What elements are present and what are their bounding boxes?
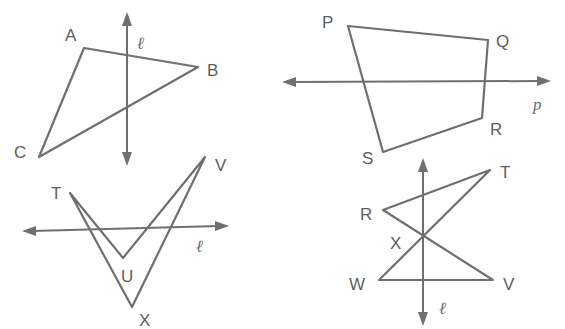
figure-quadrilateral-pqrs: P Q R S p xyxy=(282,13,551,168)
line-label-ell-3: ℓ xyxy=(439,299,446,318)
intersection-label-x: X xyxy=(390,234,401,253)
vertex-label-p: P xyxy=(322,13,333,32)
arrowhead-up-icon xyxy=(122,12,132,26)
vertex-label-r: R xyxy=(490,120,502,139)
vertex-label-s: S xyxy=(362,149,373,168)
vertex-label-v: V xyxy=(215,156,227,175)
vertex-label-v: V xyxy=(503,275,515,294)
vertex-label-t: T xyxy=(51,184,61,203)
line-ell-2 xyxy=(32,226,219,231)
arrowhead-up-icon xyxy=(418,158,428,172)
arrowhead-right-icon xyxy=(537,76,551,86)
vertex-label-t: T xyxy=(500,163,510,182)
vertex-label-x: X xyxy=(139,311,150,329)
line-label-ell-1: ℓ xyxy=(137,34,144,53)
vertex-label-w: W xyxy=(349,275,365,294)
bowtie-rtvw xyxy=(379,170,493,280)
triangle-abc xyxy=(39,48,198,157)
arrowhead-down-icon xyxy=(418,312,428,326)
figure-bowtie-rtvw: R T W V X ℓ xyxy=(349,158,515,326)
line-label-ell-2: ℓ xyxy=(196,237,203,256)
vertex-label-c: C xyxy=(14,143,26,162)
line-p xyxy=(292,81,541,82)
figure-triangle-abc: A B C ℓ xyxy=(14,12,218,166)
arrowhead-right-icon xyxy=(215,221,229,231)
vertex-label-a: A xyxy=(65,26,77,45)
vertex-label-q: Q xyxy=(496,32,509,51)
figure-dart-tuvx: T U V X ℓ xyxy=(22,156,229,329)
vertex-label-b: B xyxy=(207,61,218,80)
arrowhead-left-icon xyxy=(22,226,36,236)
vertex-label-r: R xyxy=(360,205,372,224)
arrowhead-left-icon xyxy=(282,77,296,87)
arrowhead-down-icon xyxy=(122,152,132,166)
line-label-p: p xyxy=(532,95,542,114)
quadrilateral-pqrs xyxy=(348,26,488,152)
geometry-diagram: A B C ℓ P Q R S p T U V X ℓ R T W V X xyxy=(0,0,565,329)
vertex-label-u: U xyxy=(121,267,133,286)
dart-tuvx xyxy=(70,157,205,307)
